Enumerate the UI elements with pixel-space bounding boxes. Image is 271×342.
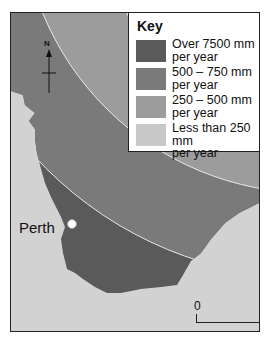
swatch-500-750 bbox=[136, 68, 166, 90]
swatch-250-500 bbox=[136, 96, 166, 118]
scale-bar: 0 300 km bbox=[194, 299, 260, 332]
map-key: Key Over 7500 mmper year 500 – 750 mmper… bbox=[128, 12, 260, 152]
north-arrow: N bbox=[41, 43, 57, 95]
key-title: Key bbox=[137, 18, 163, 34]
perth-marker bbox=[67, 219, 77, 229]
city-label-perth: Perth bbox=[19, 219, 55, 236]
swatch-less-250 bbox=[136, 124, 166, 146]
key-label: Over 7500 mmper year bbox=[172, 38, 255, 63]
map-frame: N Perth 0 300 km Key Over 7500 mmper yea… bbox=[10, 12, 260, 332]
key-item-over-7500: Over 7500 mmper year bbox=[136, 39, 260, 65]
key-label: Less than 250 mmper year bbox=[172, 122, 260, 160]
key-item-250-500: 250 – 500 mmper year bbox=[136, 95, 260, 121]
north-arrow-icon bbox=[41, 43, 57, 95]
key-item-less-250: Less than 250 mmper year bbox=[136, 123, 260, 149]
north-label: N bbox=[44, 39, 50, 48]
scale-start-label: 0 bbox=[194, 299, 201, 313]
key-item-500-750: 500 – 750 mmper year bbox=[136, 67, 260, 93]
key-label: 250 – 500 mmper year bbox=[172, 94, 252, 119]
key-label: 500 – 750 mmper year bbox=[172, 66, 252, 91]
swatch-over-7500 bbox=[136, 40, 166, 62]
scale-line bbox=[196, 314, 260, 323]
